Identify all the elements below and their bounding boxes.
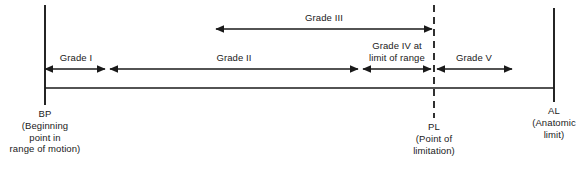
caption-al: AL(Anatomiclimit) — [532, 105, 576, 140]
caption-line: limitation) — [413, 145, 455, 157]
range-of-motion-diagram: Grade IGrade IIGrade IIIGrade IV atlimit… — [0, 0, 587, 178]
caption-line: (Point of — [413, 133, 455, 145]
caption-line: range of motion) — [10, 143, 81, 155]
caption-line: PL — [413, 121, 455, 133]
label-grade-5: Grade V — [456, 52, 492, 64]
label-grade-3: Grade III — [305, 12, 343, 24]
caption-line: limit) — [532, 129, 576, 141]
caption-line: (Anatomic — [532, 117, 576, 129]
label-grade-4: Grade IV atlimit of range — [369, 40, 425, 63]
caption-bp: BP(Beginningpoint inrange of motion) — [10, 108, 81, 155]
label-line: Grade III — [305, 12, 343, 24]
diagram-canvas — [0, 0, 587, 178]
label-line: Grade I — [60, 52, 92, 64]
label-line: limit of range — [369, 52, 425, 64]
label-line: Grade V — [456, 52, 492, 64]
caption-line: BP — [10, 108, 81, 120]
grade-arrows-group — [45, 29, 512, 69]
caption-line: (Beginning — [10, 120, 81, 132]
label-grade-1: Grade I — [60, 52, 92, 64]
label-grade-2: Grade II — [216, 52, 251, 64]
label-line: Grade II — [216, 52, 251, 64]
label-line: Grade IV at — [369, 40, 425, 52]
caption-line: AL — [532, 105, 576, 117]
caption-pl: PL(Point oflimitation) — [413, 121, 455, 156]
caption-line: point in — [10, 132, 81, 144]
